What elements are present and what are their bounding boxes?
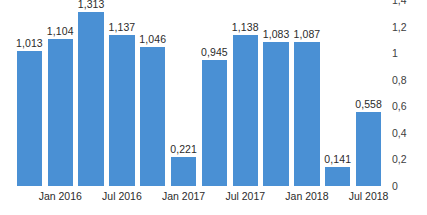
bar-slot[interactable]: 1,313: [78, 0, 103, 186]
bar-value-label: 0,558: [355, 98, 382, 110]
bar-value-label: 1,083: [263, 28, 290, 40]
bar[interactable]: [233, 35, 258, 186]
bar-slot[interactable]: 0,141: [325, 0, 350, 186]
bar[interactable]: [325, 167, 350, 186]
y-axis-tick-label: 1,4: [392, 0, 407, 6]
bar[interactable]: [78, 12, 103, 186]
bar-value-label: 1,104: [47, 25, 74, 37]
bar-value-label: 0,945: [201, 46, 228, 58]
bar-value-label: 0,221: [170, 143, 197, 155]
bar-slot[interactable]: 1,087: [294, 0, 319, 186]
bar-slot[interactable]: 0,945: [202, 0, 227, 186]
y-axis: 00,20,40,60,811,21,4: [392, 0, 427, 215]
y-axis-tick-label: 0,6: [392, 100, 407, 112]
bar[interactable]: [356, 112, 381, 186]
x-axis: Jan 2016Jul 2016Jan 2017Jul 2017Jan 2018…: [14, 188, 384, 215]
bar-slot[interactable]: 1,137: [109, 0, 134, 186]
bar-value-label: 1,137: [109, 21, 136, 33]
bar[interactable]: [48, 39, 73, 186]
bar-value-label: 1,313: [78, 0, 105, 10]
y-axis-tick-label: 0,4: [392, 127, 407, 139]
y-axis-tick-label: 1: [392, 47, 398, 59]
x-axis-tick-label: Jul 2017: [225, 190, 265, 202]
x-axis-tick-label: Jan 2018: [285, 190, 328, 202]
y-axis-tick-label: 0,8: [392, 74, 407, 86]
bar[interactable]: [109, 35, 134, 186]
bar[interactable]: [202, 60, 227, 186]
bar-value-label: 1,087: [294, 28, 321, 40]
bar-value-label: 1,138: [232, 21, 259, 33]
bar-value-label: 1,046: [139, 33, 166, 45]
y-axis-tick-label: 1,2: [392, 21, 407, 33]
bar-slot[interactable]: 0,221: [171, 0, 196, 186]
plot-area: 1,0131,1041,3131,1371,0460,2210,9451,138…: [14, 0, 384, 186]
bar[interactable]: [140, 47, 165, 186]
bar-value-label: 0,141: [324, 153, 351, 165]
bar-slot[interactable]: 1,138: [233, 0, 258, 186]
bar[interactable]: [171, 157, 196, 186]
bar[interactable]: [263, 42, 288, 186]
x-axis-tick-label: Jul 2018: [349, 190, 389, 202]
x-axis-tick-label: Jan 2017: [162, 190, 205, 202]
bar-slot[interactable]: 1,013: [17, 0, 42, 186]
x-axis-tick-label: Jul 2016: [102, 190, 142, 202]
bar-slot[interactable]: 1,046: [140, 0, 165, 186]
bar-slot[interactable]: 1,083: [263, 0, 288, 186]
bar-slot[interactable]: 0,558: [356, 0, 381, 186]
y-axis-tick-label: 0,2: [392, 153, 407, 165]
bar[interactable]: [294, 42, 319, 186]
bar-slot[interactable]: 1,104: [48, 0, 73, 186]
y-axis-tick-label: 0: [392, 180, 398, 192]
bar-value-label: 1,013: [16, 37, 43, 49]
bar[interactable]: [17, 51, 42, 186]
x-axis-tick-label: Jan 2016: [39, 190, 82, 202]
bar-chart: 1,0131,1041,3131,1371,0460,2210,9451,138…: [0, 0, 427, 215]
